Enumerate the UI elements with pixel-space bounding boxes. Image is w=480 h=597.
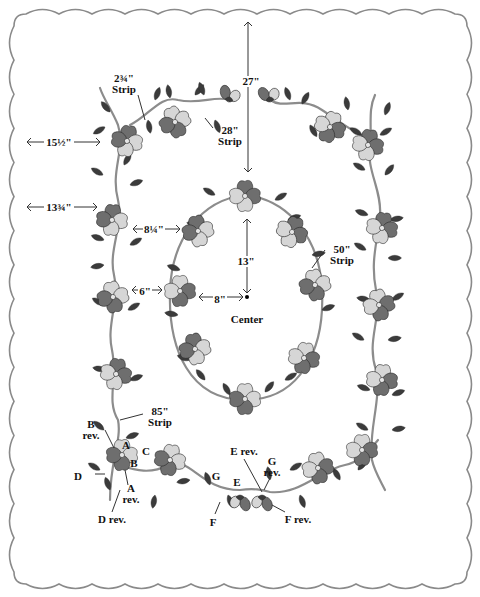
piece-d-rev-label: D rev. (92, 514, 132, 525)
piece-a-rev-sub: rev. (120, 494, 142, 505)
piece-a-label: A (121, 440, 131, 451)
piece-g-rev-label: G rev. (260, 456, 284, 478)
piece-e-rev-label: E rev. (225, 446, 263, 457)
side-strip-label: 85" Strip (142, 406, 178, 428)
piece-d-label: D (73, 471, 83, 482)
dim-8: 8" (213, 294, 227, 305)
top-strip-label: 28" Strip (212, 125, 248, 147)
piece-f-label: F (208, 517, 218, 528)
side-strip-text: Strip (142, 417, 178, 428)
piece-a-rev-label: A rev. (120, 483, 142, 505)
dim-6: 6" (138, 286, 152, 297)
dim-15-half: 15½" (44, 137, 74, 148)
piece-g-label: G (211, 471, 221, 482)
corner-strip-label: 2¾" Strip (104, 73, 144, 95)
piece-e-label: E (232, 477, 242, 488)
oval-strip-label: 50" Strip (324, 244, 360, 266)
dim-8-quarter: 8¼" (143, 224, 165, 235)
piece-g-rev-sub: rev. (260, 467, 284, 478)
piece-b-rev-label: B rev. (78, 419, 104, 441)
piece-b-label: B (129, 458, 139, 469)
corner-strip-text: Strip (104, 84, 144, 95)
dim-13: 13" (236, 256, 256, 267)
piece-b-rev-sub: rev. (78, 430, 104, 441)
dim-27: 27" (236, 76, 266, 87)
center-label: Center (225, 314, 269, 325)
oval-strip-text: Strip (324, 255, 360, 266)
dim-13-three-quarter: 13¾" (44, 202, 74, 213)
quilt-diagram (0, 0, 480, 597)
piece-f-rev-label: F rev. (278, 514, 318, 525)
top-strip-text: Strip (212, 136, 248, 147)
piece-c-label: C (141, 446, 151, 457)
